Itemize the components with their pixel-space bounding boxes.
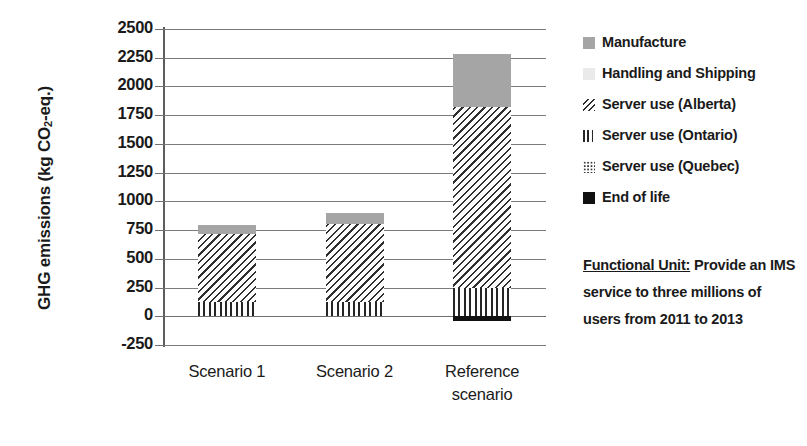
- y-axis-tick: [155, 316, 164, 317]
- legend-label: End of life: [602, 188, 670, 207]
- chart-figure: GHG emissions (kg CO2-eq.) 2500225020001…: [0, 0, 807, 446]
- y-axis-tick: [155, 115, 164, 116]
- bar-segment-end-of-life: [453, 316, 511, 321]
- y-axis-tick: [155, 230, 164, 231]
- functional-unit-heading: Functional Unit:: [583, 257, 690, 273]
- plot-area: [163, 29, 546, 345]
- legend-label: Handling and Shipping: [602, 64, 756, 83]
- y-axis-tick-label: 250: [23, 277, 153, 296]
- y-axis-tick-label: 1250: [23, 162, 153, 181]
- bar-segment: [326, 224, 384, 302]
- bar-segment: [198, 225, 256, 234]
- y-axis-tick: [155, 288, 164, 289]
- y-axis-tick-label: 500: [23, 248, 153, 267]
- legend-item[interactable]: Server use (Ontario): [583, 126, 807, 157]
- y-axis-tick: [155, 58, 164, 59]
- y-axis-tick: [155, 201, 164, 202]
- legend-label: Server use (Alberta): [602, 95, 736, 114]
- legend-item[interactable]: Manufacture: [583, 33, 807, 64]
- y-axis-tick-label: 2000: [23, 75, 153, 94]
- x-axis-tick-label: Scenario 1: [163, 360, 291, 383]
- legend-label: Manufacture: [602, 33, 686, 52]
- bar-scenario-1[interactable]: [198, 29, 256, 345]
- y-axis-tick-labels: 25002250200017501500125010007505002500-2…: [15, 0, 153, 446]
- bar-segment: [326, 302, 384, 316]
- x-axis-tick-label: Scenario 2: [291, 360, 419, 383]
- y-axis-tick: [155, 345, 164, 346]
- bar-segment: [198, 302, 256, 316]
- legend-item[interactable]: End of life: [583, 188, 807, 219]
- x-axis-tick-label: Referencescenario: [418, 360, 546, 406]
- chart-legend: ManufactureHandling and ShippingServer u…: [583, 33, 807, 219]
- y-axis-tick: [155, 173, 164, 174]
- x-axis-tick-label-line2: scenario: [418, 383, 546, 406]
- y-axis-tick-label: 1000: [23, 190, 153, 209]
- bar-segment: [453, 288, 511, 317]
- bar-scenario-2[interactable]: [326, 29, 384, 345]
- y-axis-tick-label: 2250: [23, 47, 153, 66]
- legend-swatch-icon: [583, 99, 595, 111]
- y-axis-tick: [155, 259, 164, 260]
- legend-swatch-icon: [583, 37, 595, 49]
- y-axis-tick-label: 0: [23, 305, 153, 324]
- y-axis-tick-label: 2500: [23, 18, 153, 37]
- legend-label: Server use (Quebec): [602, 157, 739, 176]
- bar-segment: [453, 107, 511, 287]
- y-axis-tick-label: 750: [23, 219, 153, 238]
- legend-swatch-icon: [583, 68, 595, 80]
- y-axis-tick: [155, 144, 164, 145]
- bar-segment: [198, 234, 256, 303]
- legend-swatch-icon: [583, 161, 595, 173]
- legend-item[interactable]: Server use (Alberta): [583, 95, 807, 126]
- bar-segment: [326, 213, 384, 224]
- y-axis-tick-label: -250: [23, 334, 153, 353]
- y-axis-tick: [155, 29, 164, 30]
- bar-segment: [453, 54, 511, 107]
- legend-swatch-icon: [583, 130, 595, 142]
- y-axis-tick-label: 1750: [23, 104, 153, 123]
- legend-item[interactable]: Handling and Shipping: [583, 64, 807, 95]
- bar-reference-scenario[interactable]: [453, 29, 511, 345]
- y-axis-tick-label: 1500: [23, 133, 153, 152]
- y-axis-tick: [155, 86, 164, 87]
- legend-item[interactable]: Server use (Quebec): [583, 157, 807, 188]
- legend-label: Server use (Ontario): [602, 126, 737, 145]
- functional-unit-note: Functional Unit: Provide an IMS service …: [583, 252, 798, 333]
- legend-swatch-icon: [583, 192, 595, 204]
- gridline: [163, 345, 546, 346]
